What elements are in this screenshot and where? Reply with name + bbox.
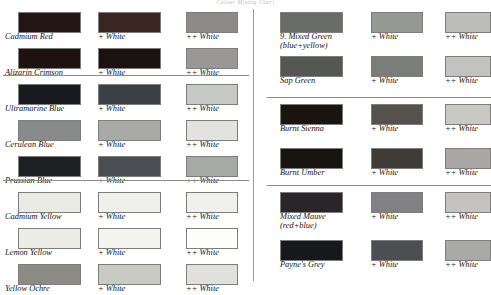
group-divider	[267, 185, 491, 186]
colour-swatch	[186, 264, 238, 285]
colour-name-label: Yellow Ochre	[5, 284, 50, 294]
swatch-row: Lemon Yellow+ White++ White	[0, 228, 253, 264]
mix-label: ++ White	[445, 168, 478, 178]
colour-name-label: Burnt Sienna	[280, 124, 324, 134]
colour-swatch	[18, 48, 81, 69]
colour-name-label: Sap Green	[280, 76, 315, 86]
colour-swatch	[445, 192, 491, 213]
group-divider	[3, 180, 249, 181]
mix-label: + White	[371, 76, 398, 86]
colour-swatch	[18, 12, 81, 33]
mix-label: + White	[98, 68, 125, 78]
chart-panel-left: Cadmium Red+ White++ WhiteAlizarin Crims…	[0, 0, 253, 288]
mix-label: ++ White	[445, 260, 478, 270]
colour-swatch	[445, 148, 491, 169]
colour-swatch	[98, 12, 161, 33]
mix-label: + White	[98, 32, 125, 42]
colour-swatch	[371, 12, 423, 33]
swatch-row: Cerulean Blue+ White++ White	[0, 120, 253, 156]
colour-swatch	[98, 156, 161, 177]
colour-swatch	[186, 192, 238, 213]
colour-name-subtitle: (blue+yellow)	[280, 41, 328, 51]
mix-label: ++ White	[186, 104, 219, 114]
colour-swatch	[186, 120, 238, 141]
mix-label: ++ White	[186, 284, 219, 294]
mix-label: ++ White	[445, 32, 478, 42]
colour-swatch	[98, 84, 161, 105]
colour-swatch	[186, 228, 238, 249]
colour-swatch	[280, 12, 343, 33]
colour-name-label: Prussian Blue	[5, 176, 52, 186]
colour-swatch	[445, 12, 491, 33]
mix-label: ++ White	[445, 124, 478, 134]
swatch-row: Ultramarine Blue+ White++ White	[0, 84, 253, 120]
colour-swatch	[18, 156, 81, 177]
mix-label: ++ White	[186, 32, 219, 42]
colour-swatch	[280, 240, 343, 261]
colour-swatch	[98, 264, 161, 285]
group-divider	[3, 75, 249, 76]
mix-label: + White	[98, 284, 125, 294]
colour-swatch	[371, 104, 423, 125]
colour-swatch	[371, 192, 423, 213]
mix-label: ++ White	[186, 212, 219, 222]
mix-label: + White	[371, 168, 398, 178]
mix-label: ++ White	[186, 176, 219, 186]
colour-swatch	[98, 192, 161, 213]
mix-label: + White	[98, 140, 125, 150]
colour-swatch	[186, 12, 238, 33]
swatch-row: Cadmium Yellow+ White++ White	[0, 192, 253, 228]
mix-label: + White	[98, 176, 125, 186]
swatch-row: Sap Green+ White++ White	[253, 56, 491, 92]
colour-swatch	[371, 56, 423, 77]
group-divider	[267, 97, 491, 98]
swatch-row: Yellow Ochre+ White++ White	[0, 264, 253, 295]
colour-name-label: Alizarin Crimson	[5, 68, 63, 78]
swatch-row: Payne's Grey+ White++ White	[253, 240, 491, 276]
mix-label: + White	[98, 212, 125, 222]
mix-label: + White	[371, 260, 398, 270]
colour-swatch	[445, 104, 491, 125]
colour-swatch	[280, 192, 343, 213]
swatch-row: Burnt Umber+ White++ White	[253, 148, 491, 184]
mix-label: + White	[371, 32, 398, 42]
colour-swatch	[280, 56, 343, 77]
mix-label: + White	[371, 124, 398, 134]
colour-swatch	[18, 228, 81, 249]
swatch-row: Cadmium Red+ White++ White	[0, 12, 253, 48]
colour-swatch	[18, 192, 81, 213]
colour-swatch	[445, 240, 491, 261]
colour-swatch	[186, 84, 238, 105]
colour-swatch	[98, 228, 161, 249]
colour-swatch	[18, 120, 81, 141]
colour-name-label: Cadmium Yellow	[5, 212, 62, 222]
colour-swatch	[280, 148, 343, 169]
colour-swatch	[18, 84, 81, 105]
colour-name-label: Ultramarine Blue	[5, 104, 64, 114]
mix-label: ++ White	[445, 76, 478, 86]
colour-swatch	[371, 240, 423, 261]
swatch-row: Burnt Sienna+ White++ White	[253, 104, 491, 140]
colour-swatch	[98, 120, 161, 141]
colour-name-subtitle: (red+blue)	[280, 221, 317, 231]
swatch-row: Mixed Mauve+ White++ White(red+blue)	[253, 192, 491, 228]
mix-label: + White	[371, 212, 398, 222]
colour-swatch	[98, 48, 161, 69]
colour-swatch	[280, 104, 343, 125]
mix-label: ++ White	[445, 212, 478, 222]
colour-swatch	[445, 56, 491, 77]
colour-name-label: Cadmium Red	[5, 32, 53, 42]
swatch-row: Prussian Blue+ White++ White	[0, 156, 253, 192]
colour-name-label: Lemon Yellow	[5, 248, 52, 258]
colour-swatch	[18, 264, 81, 285]
colour-swatch	[186, 156, 238, 177]
colour-swatch	[371, 148, 423, 169]
colour-name-label: Payne's Grey	[280, 260, 325, 270]
mix-label: + White	[98, 248, 125, 258]
colour-name-label: Cerulean Blue	[5, 140, 54, 150]
chart-panel-right: 9. Mixed Green+ White++ White(blue+yello…	[253, 0, 491, 288]
mix-label: ++ White	[186, 248, 219, 258]
mix-label: + White	[98, 104, 125, 114]
colour-name-label: Burnt Umber	[280, 168, 324, 178]
